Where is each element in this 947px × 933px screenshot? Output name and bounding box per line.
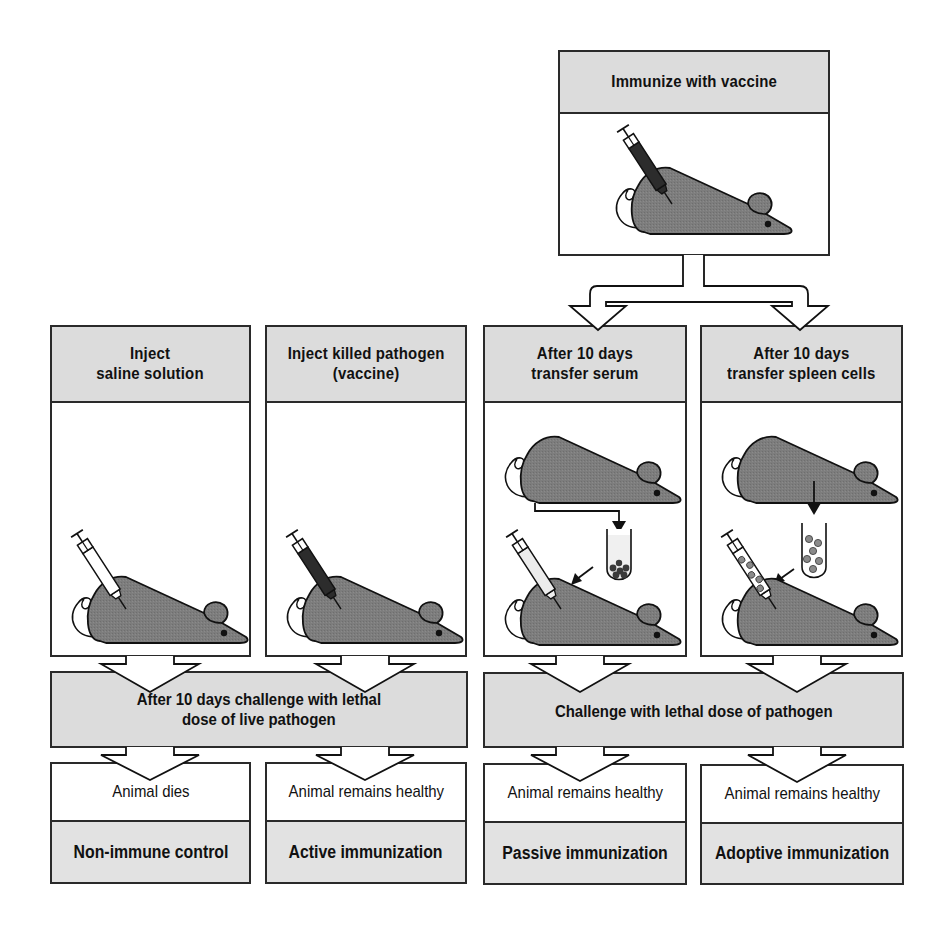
column-transfer-serum-illustration xyxy=(485,401,685,655)
column-saline-illustration xyxy=(52,401,249,655)
arrow-diagonal-icon xyxy=(571,573,582,585)
outcome-text: Animal remains healthy xyxy=(702,766,902,824)
column-transfer-spleen-header: After 10 days transfer spleen cells xyxy=(702,327,901,403)
result-label: Adoptive immunization xyxy=(702,824,902,883)
arrow-down-icon xyxy=(807,503,821,515)
immunize-box: Immunize with vaccine xyxy=(558,50,830,256)
serum-transfer-line xyxy=(535,503,619,523)
mouse-icon xyxy=(616,168,791,234)
column-killed-pathogen-header: Inject killed pathogen (vaccine) xyxy=(267,327,465,403)
recipient-mouse-icon xyxy=(505,579,680,645)
donor-mouse-icon xyxy=(722,437,897,503)
immunize-illustration xyxy=(560,112,828,254)
mouse-icon xyxy=(72,577,247,643)
column-transfer-spleen-illustration xyxy=(702,401,901,655)
serum-tube-icon xyxy=(607,529,631,580)
result-active: Animal remains healthy Active immunizati… xyxy=(265,762,467,884)
immunize-title: Immunize with vaccine xyxy=(611,72,777,92)
donor-mouse-icon xyxy=(505,437,680,503)
column-transfer-spleen: After 10 days transfer spleen cells xyxy=(700,325,903,657)
spleen-cell-tube-icon xyxy=(802,523,826,578)
column-transfer-serum: After 10 days transfer serum xyxy=(483,325,687,657)
result-passive: Animal remains healthy Passive immunizat… xyxy=(483,763,687,885)
outcome-text: Animal remains healthy xyxy=(267,764,465,822)
outcome-text: Animal remains healthy xyxy=(485,765,685,823)
column-killed-pathogen: Inject killed pathogen (vaccine) xyxy=(265,325,467,657)
result-label: Non-immune control xyxy=(52,822,249,882)
result-adoptive: Animal remains healthy Adoptive immuniza… xyxy=(700,764,904,885)
column-transfer-serum-header: After 10 days transfer serum xyxy=(485,327,685,403)
recipient-mouse-icon xyxy=(722,579,897,645)
result-label: Passive immunization xyxy=(485,823,685,883)
outcome-text: Animal dies xyxy=(52,764,249,822)
immunize-header: Immunize with vaccine xyxy=(560,52,828,114)
challenge-left-text: After 10 days challenge with lethal dose… xyxy=(137,690,381,730)
result-label: Active immunization xyxy=(267,822,465,882)
column-transfer-spleen-title: After 10 days transfer spleen cells xyxy=(727,344,875,384)
column-saline: Inject saline solution xyxy=(50,325,251,657)
result-non-immune: Animal dies Non-immune control xyxy=(50,762,251,884)
challenge-box-right: Challenge with lethal dose of pathogen xyxy=(483,672,904,748)
column-saline-header: Inject saline solution xyxy=(52,327,249,403)
mouse-icon xyxy=(287,577,462,643)
column-saline-title: Inject saline solution xyxy=(97,344,204,384)
split-arrow-icon xyxy=(570,255,828,330)
column-killed-pathogen-title: Inject killed pathogen (vaccine) xyxy=(288,344,445,384)
challenge-box-left: After 10 days challenge with lethal dose… xyxy=(50,671,468,748)
challenge-right-text: Challenge with lethal dose of pathogen xyxy=(555,698,833,722)
column-killed-pathogen-illustration xyxy=(267,401,465,655)
column-transfer-serum-title: After 10 days transfer serum xyxy=(531,344,638,384)
